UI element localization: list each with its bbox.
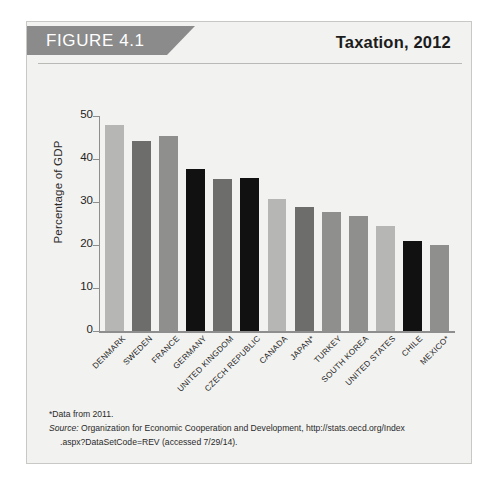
- bar: [132, 141, 151, 331]
- source-label: Source:: [49, 423, 79, 433]
- chart-plot-area: Percentage of GDP 01020304050 DENMARKSWE…: [27, 68, 471, 408]
- y-tick-mark: [93, 159, 100, 160]
- y-axis-line: [99, 116, 100, 332]
- figure-header: FIGURE 4.1 Taxation, 2012: [27, 22, 471, 55]
- y-tick-mark: [93, 245, 100, 246]
- bar: [105, 125, 124, 331]
- footnote-source: Source: Organization for Economic Cooper…: [49, 422, 459, 436]
- y-tick-mark: [93, 116, 100, 117]
- figure-title: Taxation, 2012: [336, 33, 451, 52]
- y-tick-label: 20: [33, 237, 93, 249]
- header-divider: [38, 63, 462, 64]
- y-tick-mark: [93, 288, 100, 289]
- y-tick-label: 0: [33, 323, 93, 335]
- y-tick-label: 40: [33, 151, 93, 163]
- x-axis-labels: DENMARKSWEDENFRANCEGERMANYUNITED KINGDOM…: [101, 334, 461, 408]
- footnote-source-continuation: .aspx?DataSetCode=REV (accessed 7/29/14)…: [49, 436, 459, 450]
- bar: [159, 136, 178, 331]
- bar: [186, 169, 205, 331]
- y-tick-label: 30: [33, 194, 93, 206]
- y-tick-mark: [93, 331, 100, 332]
- y-tick-mark: [93, 202, 100, 203]
- source-text: Organization for Economic Cooperation an…: [79, 423, 405, 433]
- figure-number-banner: FIGURE 4.1: [27, 26, 195, 55]
- figure-number-label: FIGURE 4.1: [27, 31, 145, 51]
- footnote-asterisk: *Data from 2011.: [49, 408, 459, 422]
- figure-notes: *Data from 2011. Source: Organization fo…: [49, 408, 459, 450]
- y-tick-label: 50: [33, 108, 93, 120]
- figure-container: FIGURE 4.1 Taxation, 2012 Percentage of …: [26, 21, 472, 464]
- y-tick-label: 10: [33, 280, 93, 292]
